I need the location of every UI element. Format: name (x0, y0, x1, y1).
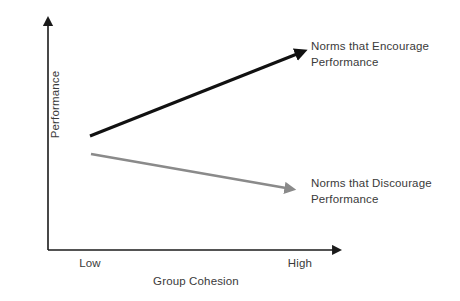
series-annotation-encourage-line1: Norms that Encourage (311, 40, 429, 52)
series-annotation-discourage-line1: Norms that Discourage (311, 177, 432, 189)
series-annotation-discourage: Norms that Discourage Performance (311, 176, 456, 207)
series-annotation-encourage: Norms that Encourage Performance (311, 39, 456, 70)
series-annotation-discourage-line2: Performance (311, 192, 456, 208)
x-tick-label-high: High (270, 256, 330, 271)
x-tick-label-low: Low (60, 256, 120, 271)
series-line-encourage (90, 54, 297, 136)
x-axis-label: Group Cohesion (146, 274, 246, 289)
y-axis-label: Performance (48, 60, 63, 150)
series-annotation-encourage-line2: Performance (311, 55, 456, 71)
performance-cohesion-chart: Performance Group Cohesion Low High Norm… (0, 0, 460, 301)
series-line-discourage (91, 154, 286, 188)
